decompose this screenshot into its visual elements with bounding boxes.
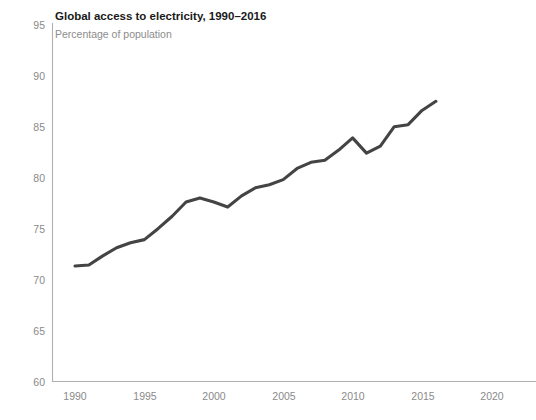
x-tick-label-2005: 2005 [272, 390, 296, 402]
x-tick-label-1990: 1990 [63, 390, 87, 402]
y-tick-label-95: 95 [33, 19, 45, 31]
chart-title: Global access to electricity, 1990–2016 [55, 10, 266, 22]
y-tick-label-70: 70 [33, 274, 45, 286]
y-tick-label-85: 85 [33, 121, 45, 133]
y-tick-label-75: 75 [33, 223, 45, 235]
chart-container: Global access to electricity, 1990–2016 … [0, 0, 536, 420]
line-chart: Global access to electricity, 1990–2016 … [0, 0, 536, 420]
chart-background [0, 0, 536, 420]
y-tick-label-80: 80 [33, 172, 45, 184]
chart-subtitle: Percentage of population [55, 28, 172, 40]
x-tick-label-1995: 1995 [133, 390, 157, 402]
y-tick-label-90: 90 [33, 70, 45, 82]
x-tick-label-2000: 2000 [202, 390, 226, 402]
x-tick-label-2020: 2020 [480, 390, 504, 402]
y-tick-label-60: 60 [33, 376, 45, 388]
x-tick-label-2015: 2015 [411, 390, 435, 402]
x-tick-label-2010: 2010 [341, 390, 365, 402]
y-tick-label-65: 65 [33, 325, 45, 337]
